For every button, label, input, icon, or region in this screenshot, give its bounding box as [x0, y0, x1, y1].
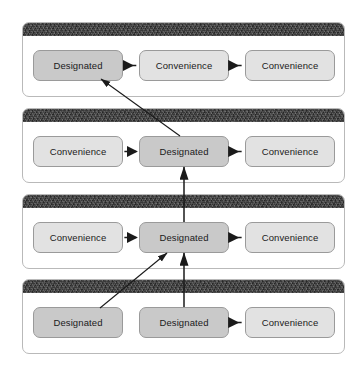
node-convenience[interactable]: Convenience — [245, 136, 335, 167]
panel-header-bar — [23, 23, 344, 36]
panel-header-bar — [23, 195, 344, 208]
diagram-canvas: Designated Convenience Convenience — [0, 0, 358, 365]
node-designated[interactable]: Designated — [33, 50, 123, 81]
node-convenience[interactable]: Convenience — [245, 50, 335, 81]
node-label: Convenience — [50, 232, 107, 243]
panel-body: Convenience Designated Convenience — [23, 208, 344, 268]
panel-header-bar — [23, 280, 344, 293]
node-designated[interactable]: Designated — [139, 307, 229, 338]
node-designated[interactable]: Designated — [33, 307, 123, 338]
node-convenience[interactable]: Convenience — [139, 50, 229, 81]
node-label: Convenience — [156, 60, 213, 71]
node-label: Convenience — [262, 146, 319, 157]
node-label: Designated — [159, 317, 208, 328]
panel-1[interactable]: Designated Convenience Convenience — [22, 22, 345, 97]
node-label: Convenience — [262, 232, 319, 243]
node-label: Designated — [159, 146, 208, 157]
panel-body: Convenience Designated Convenience — [23, 122, 344, 182]
node-convenience[interactable]: Convenience — [245, 307, 335, 338]
node-label: Convenience — [50, 146, 107, 157]
node-label: Designated — [53, 317, 102, 328]
panel-2[interactable]: Convenience Designated Convenience — [22, 108, 345, 183]
node-label: Designated — [53, 60, 102, 71]
node-convenience[interactable]: Convenience — [33, 222, 123, 253]
node-label: Convenience — [262, 60, 319, 71]
node-designated[interactable]: Designated — [139, 136, 229, 167]
node-label: Designated — [159, 232, 208, 243]
node-label: Convenience — [262, 317, 319, 328]
node-convenience[interactable]: Convenience — [33, 136, 123, 167]
node-convenience[interactable]: Convenience — [245, 222, 335, 253]
panel-body: Designated Designated Convenience — [23, 293, 344, 353]
panel-3[interactable]: Convenience Designated Convenience — [22, 194, 345, 269]
node-designated[interactable]: Designated — [139, 222, 229, 253]
panel-header-bar — [23, 109, 344, 122]
panel-4[interactable]: Designated Designated Convenience — [22, 279, 345, 354]
panel-body: Designated Convenience Convenience — [23, 36, 344, 96]
